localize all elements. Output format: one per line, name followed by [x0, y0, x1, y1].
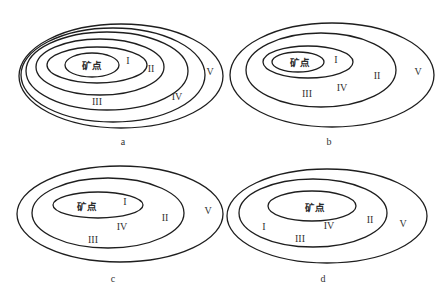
- zone-label-IV: IV: [117, 221, 128, 232]
- zone-boundary-5: [19, 24, 223, 128]
- zone-label-III: III: [302, 88, 312, 99]
- panel-d: 矿点IIIIIIIVVd: [227, 169, 427, 284]
- ore-point-label: 矿点: [82, 60, 102, 71]
- ore-point-label: 矿点: [290, 57, 310, 68]
- zone-label-III: III: [88, 234, 98, 245]
- panel-caption: a: [121, 136, 126, 147]
- panel-c: 矿点IIIIIIIVVc: [17, 166, 223, 284]
- zone-label-V: V: [206, 66, 214, 77]
- zone-label-IV: IV: [324, 220, 335, 231]
- panel-caption: d: [321, 273, 326, 284]
- zone-label-I: I: [123, 196, 126, 207]
- panel-b: 矿点IIIIIIIVVb: [230, 23, 434, 147]
- zone-label-I: I: [334, 54, 337, 65]
- panel-a: 矿点IIIIIIIVVa: [19, 24, 223, 147]
- zone-label-V: V: [204, 205, 212, 216]
- zone-label-V: V: [414, 66, 422, 77]
- ore-point-label: 矿点: [77, 201, 97, 212]
- zone-boundary-2: [227, 169, 427, 263]
- zone-label-IV: IV: [337, 82, 348, 93]
- zoning-diagram: 矿点IIIIIIIVVa 矿点IIIIIIIVVb 矿点IIIIIIIVVc 矿…: [0, 0, 447, 302]
- zone-label-III: III: [295, 233, 305, 244]
- zone-label-II: II: [148, 63, 155, 74]
- panel-caption: b: [327, 136, 332, 147]
- zone-label-II: II: [374, 70, 381, 81]
- zone-label-IV: IV: [172, 91, 183, 102]
- ore-point-label: 矿点: [305, 202, 325, 213]
- zone-label-II: II: [367, 214, 374, 225]
- ore-body-boundary: [53, 192, 143, 218]
- zone-label-I: I: [126, 55, 129, 66]
- zone-label-III: III: [92, 96, 102, 107]
- zone-boundary-1: [239, 179, 387, 247]
- panel-caption: c: [111, 273, 116, 284]
- zone-boundary-4: [21, 28, 205, 122]
- zone-label-I: I: [262, 221, 265, 232]
- zone-label-II: II: [162, 212, 169, 223]
- zone-label-V: V: [399, 218, 407, 229]
